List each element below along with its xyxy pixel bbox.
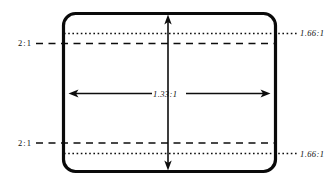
label-bottom-left-ratio: 2:1: [18, 138, 32, 148]
label-top-left-ratio: 2:1: [18, 38, 32, 48]
aspect-ratio-diagram: 2:1 1.66:1 1.33:1 2:1 1.66:1: [0, 0, 335, 187]
label-top-right-ratio: 1.66:1: [300, 28, 324, 38]
label-bottom-right-ratio: 1.66:1: [300, 149, 324, 159]
diagram-canvas: 2:1 1.66:1 1.33:1 2:1 1.66:1: [0, 0, 335, 187]
label-center-width-ratio: 1.33:1: [153, 89, 177, 99]
